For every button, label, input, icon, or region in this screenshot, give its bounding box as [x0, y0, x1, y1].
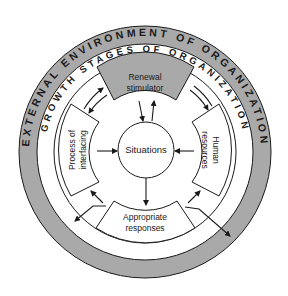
interfacing-label-line1: Process of	[67, 129, 77, 170]
responses-label-line2: responses	[125, 223, 164, 233]
responses-label-line1: Appropriate	[123, 212, 167, 222]
situations-label: Situations	[125, 144, 167, 155]
renewal-label-line1: Renewal	[128, 72, 161, 82]
human-label-line1: Human	[211, 136, 221, 164]
human-label-line2: resources	[200, 131, 210, 168]
renewal-label-line2: stimulator	[127, 83, 164, 93]
interfacing-label-line2: interfacing	[78, 130, 88, 169]
situations-node: Situations	[118, 122, 174, 178]
renewal-stimulator-node: Renewal stimulator	[97, 52, 194, 100]
organization-growth-diagram: EXTERNAL ENVIRONMENT OF ORGANIZATION GRO…	[0, 0, 288, 296]
